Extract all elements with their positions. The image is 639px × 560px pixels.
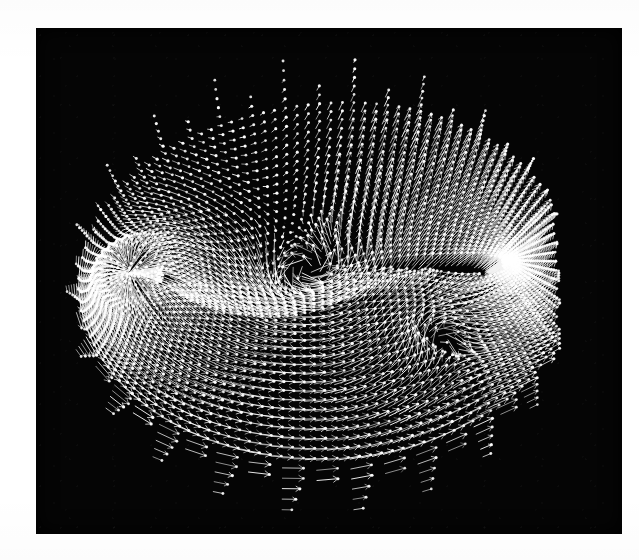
vector-field-plate bbox=[36, 28, 622, 534]
vector-field-canvas bbox=[36, 28, 622, 534]
figure-root bbox=[0, 0, 639, 560]
